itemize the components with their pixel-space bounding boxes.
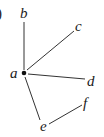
- edge-a-c: [27, 31, 74, 70]
- edge-a-e: [25, 77, 40, 120]
- node-label-c: c: [75, 18, 82, 34]
- node-label-f: f: [83, 95, 89, 111]
- edges: [24, 22, 85, 124]
- node-label-b: b: [20, 5, 28, 21]
- subfigure-label-fragment: ): [0, 5, 2, 22]
- node-a-dot: [22, 71, 27, 76]
- graph-diagram: ) a b c d f e: [0, 0, 104, 137]
- edge-e-f: [49, 105, 82, 124]
- node-label-a: a: [10, 65, 18, 81]
- node-label-e: e: [40, 118, 47, 134]
- node-label-d: d: [87, 73, 95, 89]
- edge-a-d: [28, 74, 85, 79]
